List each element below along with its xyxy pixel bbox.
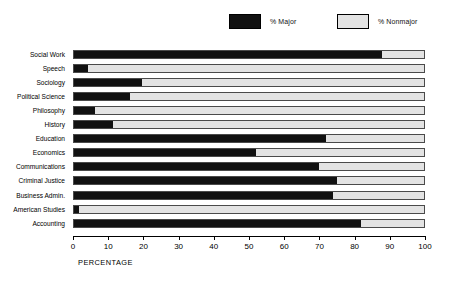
bar-segment-major xyxy=(74,163,319,170)
plot-area xyxy=(73,50,425,232)
bar-row xyxy=(73,120,425,129)
x-axis-tick-label: 0 xyxy=(71,242,75,251)
legend-entry-major: % Major xyxy=(229,14,296,29)
x-axis-tick-label: 90 xyxy=(385,242,394,251)
x-axis-tick xyxy=(425,236,426,240)
bar-segment-major xyxy=(74,177,337,184)
category-label: Sociology xyxy=(36,78,65,87)
legend-entry-nonmajor: % Nonmajor xyxy=(337,14,418,29)
x-axis-tick xyxy=(179,236,180,240)
bar-segment-major xyxy=(74,93,130,100)
bar-row xyxy=(73,50,425,59)
category-axis-labels: Social WorkSpeechSociologyPolitical Scie… xyxy=(0,50,69,232)
x-axis-tick-label: 20 xyxy=(139,242,148,251)
x-axis-tick xyxy=(143,236,144,240)
bar-row xyxy=(73,191,425,200)
x-axis-tick xyxy=(355,236,356,240)
bar-segment-major xyxy=(74,107,95,114)
category-label: Criminal Justice xyxy=(18,176,65,185)
bar-segment-major xyxy=(74,192,333,199)
bar-segment-major xyxy=(74,79,142,86)
category-label: Social Work xyxy=(30,50,65,59)
legend-swatch-nonmajor-icon xyxy=(337,14,369,29)
bar-segment-major xyxy=(74,149,256,156)
category-label: Accounting xyxy=(32,219,65,228)
category-label: American Studies xyxy=(13,205,65,214)
category-label: Business Admin. xyxy=(16,191,65,200)
x-axis-tick xyxy=(319,236,320,240)
x-axis-tick xyxy=(73,236,74,240)
x-axis-tick xyxy=(214,236,215,240)
bar-row xyxy=(73,148,425,157)
bar-row xyxy=(73,134,425,143)
bar-row xyxy=(73,106,425,115)
bar-row xyxy=(73,176,425,185)
x-axis-tick xyxy=(284,236,285,240)
category-label: Education xyxy=(36,134,65,143)
bar-row xyxy=(73,78,425,87)
bar-segment-major xyxy=(74,65,88,72)
x-axis-tick-label: 80 xyxy=(350,242,359,251)
bar-segment-major xyxy=(74,220,361,227)
category-label: Speech xyxy=(43,64,65,73)
x-axis-tick-label: 30 xyxy=(174,242,183,251)
bar-segment-major xyxy=(74,135,326,142)
category-label: History xyxy=(44,120,65,129)
x-axis-tick xyxy=(390,236,391,240)
category-label: Communications xyxy=(16,162,65,171)
bar-row xyxy=(73,92,425,101)
bar-row xyxy=(73,64,425,73)
x-axis-tick-label: 10 xyxy=(104,242,113,251)
bar-segment-major xyxy=(74,206,79,213)
legend-label-major: % Major xyxy=(270,18,296,25)
x-axis-tick-label: 40 xyxy=(209,242,218,251)
stacked-bar-chart: % Major % Nonmajor Social WorkSpeechSoci… xyxy=(0,0,456,299)
x-axis-tick xyxy=(249,236,250,240)
chart-legend: % Major % Nonmajor xyxy=(0,14,456,36)
bar-row xyxy=(73,205,425,214)
category-label: Economics xyxy=(33,148,65,157)
category-label: Philosophy xyxy=(33,106,65,115)
bar-segment-major xyxy=(74,51,382,58)
bar-rows xyxy=(73,50,425,232)
legend-swatch-major-icon xyxy=(229,14,261,29)
x-axis-title: PERCENTAGE xyxy=(78,258,133,267)
legend-label-nonmajor: % Nonmajor xyxy=(378,18,418,25)
bar-row xyxy=(73,162,425,171)
x-axis-tick xyxy=(108,236,109,240)
bar-segment-major xyxy=(74,121,113,128)
x-axis-tick-label: 100 xyxy=(418,242,431,251)
category-label: Political Science xyxy=(17,92,65,101)
x-axis-tick-label: 60 xyxy=(280,242,289,251)
x-axis-tick-label: 70 xyxy=(315,242,324,251)
bar-row xyxy=(73,219,425,228)
x-axis-tick-label: 50 xyxy=(245,242,254,251)
